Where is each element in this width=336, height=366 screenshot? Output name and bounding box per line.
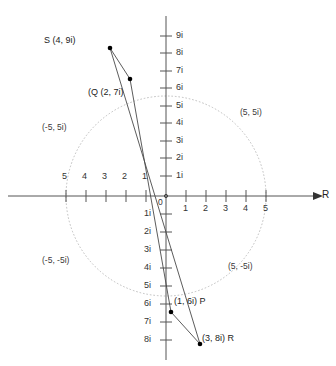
axis-label-neg-5i: 5i xyxy=(144,281,151,290)
axis-label-neg-4: 4 xyxy=(82,172,87,181)
quadrant-label-top-left: (-5, 5i) xyxy=(42,123,67,132)
complex-plane-figure: 9i 8i 7i 6i 5i 4i 3i 2i 1i 1i 2i 3i 4i 5… xyxy=(0,0,336,366)
axis-label-neg-1: 1 xyxy=(142,172,147,181)
point-label-p: (1, 6i) P xyxy=(174,297,206,306)
axis-label-3i: 3i xyxy=(176,136,183,145)
segment-s-to-q xyxy=(110,48,130,79)
axis-label-2: 2 xyxy=(203,204,208,213)
point-label-r: (3, 8i) R xyxy=(202,334,234,343)
axis-label-1: 1 xyxy=(183,204,188,213)
origin-label: 0 xyxy=(158,198,163,207)
axis-label-3: 3 xyxy=(223,204,228,213)
quadrant-label-bottom-right: (5, -5i) xyxy=(228,262,253,271)
axis-label-neg-1i: 1i xyxy=(144,209,151,218)
point-s-marker xyxy=(108,46,113,51)
axis-label-4: 4 xyxy=(243,204,248,213)
axis-label-neg-5: 5 xyxy=(62,172,67,181)
axis-label-8i: 8i xyxy=(176,48,183,57)
axis-label-4i: 4i xyxy=(176,118,183,127)
quadrant-label-top-right: (5, 5i) xyxy=(240,108,262,117)
axis-label-neg-8i: 8i xyxy=(144,335,151,344)
segment-p-to-r xyxy=(171,312,200,344)
point-q-marker xyxy=(128,77,133,82)
axis-label-5: 5 xyxy=(263,204,268,213)
axis-label-neg-4i: 4i xyxy=(144,263,151,272)
axis-label-9i: 9i xyxy=(176,31,183,40)
axis-label-neg-3i: 3i xyxy=(144,245,151,254)
axis-label-neg-7i: 7i xyxy=(144,317,151,326)
axis-label-6i: 6i xyxy=(176,83,183,92)
axis-label-2i: 2i xyxy=(176,153,183,162)
axis-label-1i: 1i xyxy=(176,171,183,180)
axis-label-5i: 5i xyxy=(176,101,183,110)
point-label-s: S (4, 9i) xyxy=(44,36,76,45)
axis-label-neg-6i: 6i xyxy=(144,299,151,308)
axis-label-neg-2i: 2i xyxy=(144,227,151,236)
real-axis-label: R xyxy=(322,190,329,200)
plot-canvas xyxy=(0,0,336,366)
axis-label-neg-3: 3 xyxy=(102,172,107,181)
quadrant-label-bottom-left: (-5, -5i) xyxy=(42,256,69,265)
axis-label-7i: 7i xyxy=(176,66,183,75)
point-label-q: (Q (2, 7i) xyxy=(88,88,124,97)
point-p-marker xyxy=(169,310,174,315)
axis-label-neg-2: 2 xyxy=(122,172,127,181)
